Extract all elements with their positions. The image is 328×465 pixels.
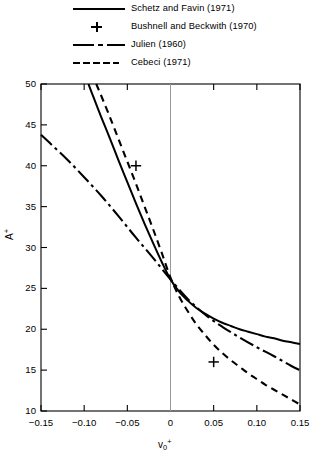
y-axis-title: A+	[2, 229, 15, 240]
y-tick-label: 10	[0, 406, 36, 416]
y-tick-label: 40	[0, 161, 36, 171]
y-tick-label: 35	[0, 202, 36, 212]
x-tick-label: 0.05	[190, 418, 238, 428]
x-tick-label: 0	[147, 418, 195, 428]
x-axis-title-superscript: +	[167, 437, 171, 446]
y-tick-label: 30	[0, 243, 36, 253]
y-tick-label: 45	[0, 120, 36, 130]
data-point-marker-plus	[131, 161, 141, 171]
data-marker-layer	[131, 161, 219, 368]
series-line-dashed	[96, 84, 300, 404]
y-axis-title-text: A	[4, 233, 15, 240]
x-tick-label: 0.10	[233, 418, 281, 428]
x-tick-label: −0.10	[60, 418, 108, 428]
x-axis-title: v0+	[158, 437, 171, 452]
plot-area: 504540353025201510 −0.15−0.10−0.0500.050…	[0, 0, 328, 465]
x-tick-label: −0.15	[17, 418, 65, 428]
y-axis-title-superscript: +	[2, 229, 11, 233]
y-tick-label: 25	[0, 283, 36, 293]
x-tick-label: −0.05	[103, 418, 151, 428]
y-tick-label: 15	[0, 365, 36, 375]
figure-root: Schetz and Favin (1971) Bushnell and Bec…	[0, 0, 328, 465]
data-point-marker-plus	[208, 357, 218, 367]
y-tick-label: 50	[0, 79, 36, 89]
y-tick-label: 20	[0, 324, 36, 334]
plot-svg-canvas	[0, 0, 328, 465]
x-tick-label: 0.15	[276, 418, 324, 428]
